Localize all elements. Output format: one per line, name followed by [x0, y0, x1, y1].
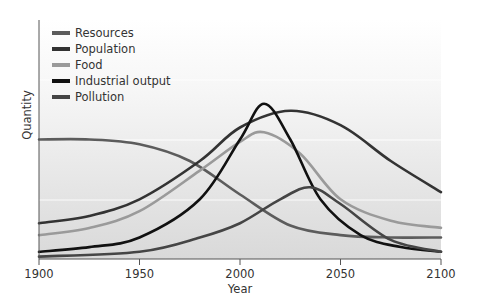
x-axis-title: Year: [227, 282, 253, 296]
legend-label: Food: [75, 58, 103, 72]
legend-swatch: [52, 79, 70, 83]
chart: 19001950200020502100 Year Quantity Resou…: [0, 0, 478, 307]
x-tick-label: 1950: [125, 267, 154, 281]
legend-swatch: [52, 63, 70, 67]
legend-swatch: [52, 95, 70, 99]
legend-swatch: [52, 31, 70, 35]
x-tick-label: 2050: [326, 267, 355, 281]
y-axis-title: Quantity: [20, 90, 34, 140]
x-tick-label: 2000: [225, 267, 254, 281]
legend-label: Pollution: [75, 90, 124, 104]
legend-swatch: [52, 47, 70, 51]
legend-label: Resources: [75, 26, 134, 40]
x-ticks: 19001950200020502100: [24, 259, 455, 281]
legend-label: Population: [75, 42, 135, 56]
legend-label: Industrial output: [75, 74, 171, 88]
x-tick-label: 2100: [426, 267, 455, 281]
x-tick-label: 1900: [24, 267, 53, 281]
